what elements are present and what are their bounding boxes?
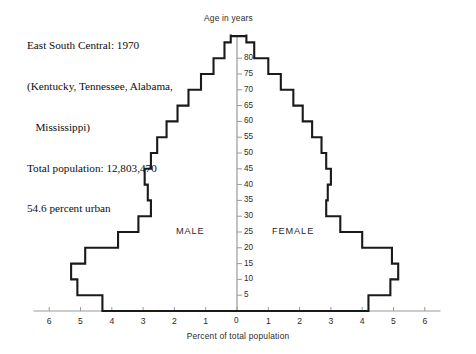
axis-layer	[34, 36, 441, 311]
y-tick-label: 10	[244, 274, 253, 283]
y-tick-label: 40	[244, 180, 253, 189]
x-tick-label: 2	[164, 316, 184, 326]
y-tick-label: 20	[244, 243, 253, 252]
pyramid-plot-area	[0, 0, 476, 354]
y-tick-label: 35	[244, 195, 253, 204]
y-tick-label: 65	[244, 101, 253, 110]
x-tick-label: 3	[133, 316, 153, 326]
x-tick-label: 1	[258, 316, 278, 326]
y-tick-label: 55	[244, 132, 253, 141]
x-tick-label: 5	[384, 316, 404, 326]
y-tick-label: 5	[244, 290, 249, 299]
y-tick-label: 15	[244, 259, 253, 268]
y-tick-label: 50	[244, 148, 253, 157]
x-tick-label: 5	[71, 316, 91, 326]
y-tick-label: 30	[244, 211, 253, 220]
x-tick-label: 6	[415, 316, 435, 326]
y-tick-label: 45	[244, 164, 253, 173]
population-pyramid-chart: East South Central: 1970 (Kentucky, Tenn…	[0, 0, 476, 354]
female-pyramid-outline	[237, 35, 398, 312]
x-tick-label: 6	[39, 316, 59, 326]
y-tick-label: 0	[234, 316, 239, 325]
x-tick-label: 1	[196, 316, 216, 326]
y-tick-label: 25	[244, 227, 253, 236]
y-tick-label: 80	[244, 53, 253, 62]
pyramid-outline-layer	[71, 35, 398, 312]
male-pyramid-outline	[71, 35, 237, 312]
y-tick-label: 60	[244, 116, 253, 125]
x-tick-label: 3	[321, 316, 341, 326]
x-tick-label: 4	[102, 316, 122, 326]
y-tick-label: 75	[244, 69, 253, 78]
y-tick-label: 70	[244, 85, 253, 94]
x-tick-label: 4	[352, 316, 372, 326]
x-tick-label: 2	[290, 316, 310, 326]
